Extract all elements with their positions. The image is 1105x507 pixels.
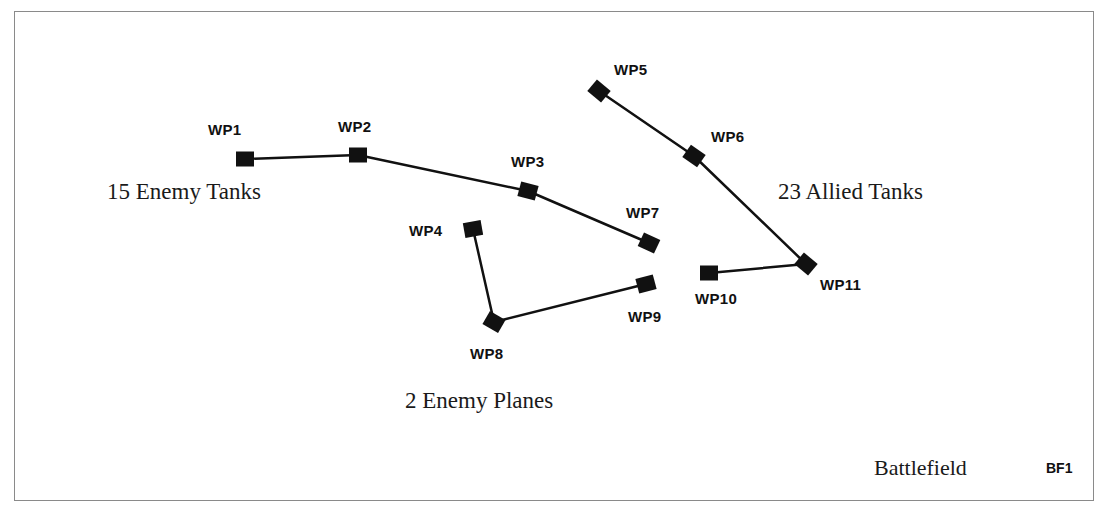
waypoint-label-wp4: WP4 (409, 223, 442, 238)
waypoint-marker-wp1[interactable] (236, 152, 254, 167)
waypoint-label-wp8: WP8 (470, 346, 503, 361)
waypoint-label-wp7: WP7 (626, 205, 659, 220)
waypoint-label-wp10: WP10 (695, 291, 737, 306)
routes-layer (245, 91, 806, 322)
waypoint-marker-wp4[interactable] (463, 220, 483, 238)
group-label-enemy-tanks: 15 Enemy Tanks (107, 180, 261, 203)
waypoint-marker-wp8[interactable] (482, 311, 505, 333)
waypoint-marker-wp9[interactable] (635, 274, 656, 293)
group-label-enemy-planes: 2 Enemy Planes (405, 389, 553, 412)
waypoint-label-wp5: WP5 (614, 62, 647, 77)
enemy-planes-route (473, 229, 646, 322)
enemy-tanks-route (245, 155, 649, 243)
battlefield-map (0, 0, 1105, 507)
group-label-allied-tanks: 23 Allied Tanks (778, 180, 923, 203)
waypoint-marker-wp10[interactable] (700, 266, 718, 281)
waypoint-marker-wp2[interactable] (349, 148, 367, 163)
waypoint-label-wp6: WP6 (711, 129, 744, 144)
waypoint-label-wp2: WP2 (338, 119, 371, 134)
waypoint-marker-wp5[interactable] (587, 79, 610, 102)
waypoint-marker-wp7[interactable] (638, 232, 661, 253)
waypoint-label-wp11: WP11 (820, 277, 861, 292)
waypoint-label-wp9: WP9 (628, 309, 661, 324)
waypoint-label-wp3: WP3 (511, 154, 544, 169)
waypoint-marker-wp3[interactable] (517, 181, 538, 200)
battlefield-title: Battlefield (874, 456, 967, 479)
waypoint-label-wp1: WP1 (208, 122, 241, 137)
battlefield-id: BF1 (1046, 461, 1072, 475)
allied-tanks-route (599, 91, 806, 273)
